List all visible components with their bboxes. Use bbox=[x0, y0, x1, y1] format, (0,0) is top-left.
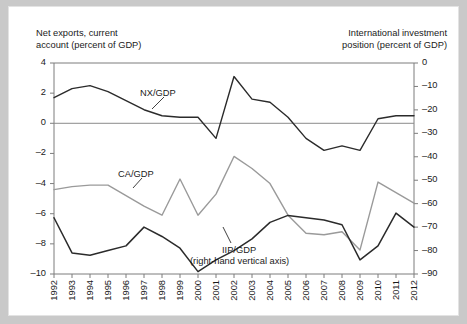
right-tick-label: –80 bbox=[422, 245, 448, 255]
right-tick-label: –90 bbox=[422, 268, 448, 278]
right-tick-label: –60 bbox=[422, 198, 448, 208]
left-tick-label: –2 bbox=[20, 147, 46, 157]
x-tick-label: 2009 bbox=[355, 280, 365, 301]
right-tick-label: –70 bbox=[422, 221, 448, 231]
x-tick-label: 2002 bbox=[229, 280, 239, 301]
figure-frame: Net exports, current account (percent of… bbox=[8, 6, 459, 316]
x-tick-label: 1992 bbox=[49, 280, 59, 301]
right-tick-label: –40 bbox=[422, 151, 448, 161]
right-tick-label: –50 bbox=[422, 174, 448, 184]
left-tick-label: –8 bbox=[20, 238, 46, 248]
x-tick-label: 2004 bbox=[265, 280, 275, 301]
x-tick-label: 2010 bbox=[373, 280, 383, 301]
x-tick-label: 1995 bbox=[103, 280, 113, 301]
left-tick-label: –6 bbox=[20, 208, 46, 218]
x-tick-label: 2011 bbox=[391, 280, 401, 300]
left-tick-label: 0 bbox=[20, 117, 46, 127]
x-tick-label: 1994 bbox=[85, 280, 95, 301]
line-chart-svg bbox=[14, 12, 455, 312]
series-label-iip: IIP/GDP bbox=[222, 245, 256, 255]
x-tick-label: 2001 bbox=[211, 280, 221, 301]
x-tick-label: 1997 bbox=[139, 280, 149, 301]
x-tick-label: 2003 bbox=[247, 280, 257, 301]
x-tick-label: 1993 bbox=[67, 280, 77, 301]
right-tick-label: –20 bbox=[422, 104, 448, 114]
right-tick-label: 0 bbox=[422, 57, 448, 67]
left-tick-label: 2 bbox=[20, 87, 46, 97]
series-label-iip-note: (right-hand vertical axis) bbox=[190, 256, 289, 266]
x-tick-label: 2008 bbox=[337, 280, 347, 301]
series-group bbox=[54, 77, 414, 272]
right-tick-label: –30 bbox=[422, 127, 448, 137]
chart-plot-area bbox=[14, 12, 455, 312]
x-tick-label: 1999 bbox=[175, 280, 185, 301]
series-label-nx: NX/GDP bbox=[140, 88, 176, 98]
x-tick-label: 1996 bbox=[121, 280, 131, 301]
x-tick-label: 2000 bbox=[193, 280, 203, 301]
series-label-ca: CA/GDP bbox=[118, 169, 154, 179]
left-tick-label: –4 bbox=[20, 178, 46, 188]
x-tick-label: 2005 bbox=[283, 280, 293, 301]
x-tick-label: 2007 bbox=[319, 280, 329, 301]
left-tick-label: 4 bbox=[20, 57, 46, 67]
x-tick-label: 1998 bbox=[157, 280, 167, 301]
x-tick-label: 2012 bbox=[409, 280, 419, 301]
right-tick-label: –10 bbox=[422, 80, 448, 90]
figure-inner: Net exports, current account (percent of… bbox=[14, 12, 455, 312]
left-tick-label: –10 bbox=[20, 268, 46, 278]
x-tick-label: 2006 bbox=[301, 280, 311, 301]
